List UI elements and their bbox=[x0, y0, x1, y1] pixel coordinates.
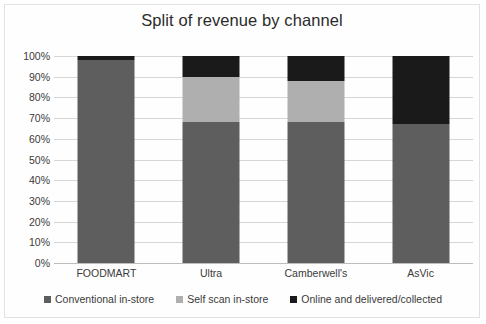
bar-segment[interactable] bbox=[392, 56, 449, 124]
y-axis-tick-label: 10% bbox=[6, 236, 50, 248]
bar-stack[interactable] bbox=[287, 56, 344, 263]
legend-item[interactable]: Conventional in-store bbox=[44, 293, 154, 305]
bar-group[interactable] bbox=[159, 56, 264, 263]
legend-item[interactable]: Online and delivered/collected bbox=[290, 293, 442, 305]
bar-stack[interactable] bbox=[392, 56, 449, 263]
plot-wrapper: 100%90%80%70%60%50%40%30%20%10%0% FOODMA… bbox=[5, 5, 481, 319]
legend-swatch-icon bbox=[290, 296, 297, 303]
y-axis-tick-label: 0% bbox=[6, 257, 50, 269]
y-axis-tick-label: 40% bbox=[6, 174, 50, 186]
y-axis-tick-label: 80% bbox=[6, 91, 50, 103]
bar-stack[interactable] bbox=[78, 56, 135, 263]
bar-segment[interactable] bbox=[392, 124, 449, 263]
legend-swatch-icon bbox=[44, 296, 51, 303]
x-axis-tick-label: AsVic bbox=[368, 267, 473, 279]
bar-group[interactable] bbox=[368, 56, 473, 263]
x-axis-tick-label: FOODMART bbox=[54, 267, 159, 279]
bar-segment[interactable] bbox=[183, 56, 240, 77]
y-axis-tick-label: 30% bbox=[6, 195, 50, 207]
y-axis: 100%90%80%70%60%50%40%30%20%10%0% bbox=[5, 56, 50, 263]
bar-segment[interactable] bbox=[287, 56, 344, 81]
y-axis-tick-label: 20% bbox=[6, 216, 50, 228]
legend-label: Self scan in-store bbox=[187, 293, 268, 305]
x-axis-tick-label: Camberwell's bbox=[264, 267, 369, 279]
y-axis-tick-label: 90% bbox=[6, 71, 50, 83]
bar-group[interactable] bbox=[54, 56, 159, 263]
bar-group[interactable] bbox=[264, 56, 369, 263]
bar-segment[interactable] bbox=[287, 122, 344, 263]
legend-label: Online and delivered/collected bbox=[301, 293, 442, 305]
legend-swatch-icon bbox=[176, 296, 183, 303]
bar-segment[interactable] bbox=[183, 122, 240, 263]
legend-item[interactable]: Self scan in-store bbox=[176, 293, 268, 305]
y-axis-tick-label: 100% bbox=[6, 50, 50, 62]
bar-segment[interactable] bbox=[78, 60, 135, 263]
gridline bbox=[54, 263, 473, 264]
y-axis-tick-label: 60% bbox=[6, 133, 50, 145]
bar-segment[interactable] bbox=[287, 81, 344, 122]
chart-legend: Conventional in-storeSelf scan in-storeO… bbox=[5, 293, 481, 305]
y-axis-tick-label: 70% bbox=[6, 112, 50, 124]
plot-area bbox=[54, 56, 473, 263]
legend-label: Conventional in-store bbox=[55, 293, 154, 305]
x-axis-tick-label: Ultra bbox=[159, 267, 264, 279]
y-axis-tick-label: 50% bbox=[6, 154, 50, 166]
bar-segment[interactable] bbox=[183, 77, 240, 123]
bar-segment[interactable] bbox=[78, 56, 135, 60]
chart-container: Split of revenue by channel 100%90%80%70… bbox=[4, 4, 480, 318]
bar-stack[interactable] bbox=[183, 56, 240, 263]
